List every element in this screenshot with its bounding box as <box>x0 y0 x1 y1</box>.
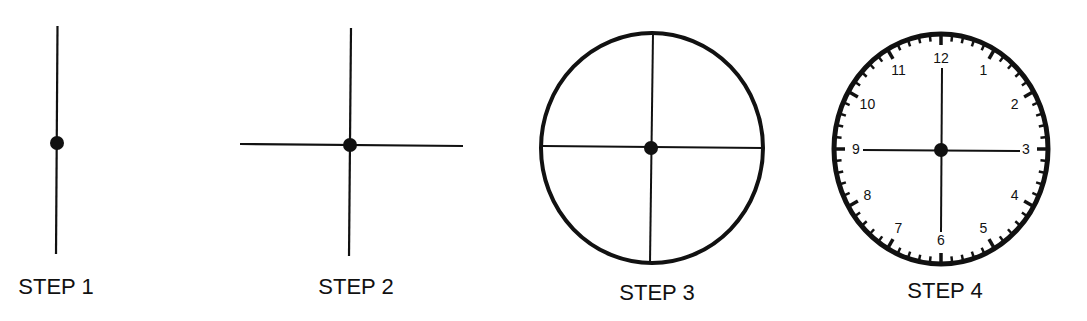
hour-number-11: 11 <box>891 62 906 78</box>
hour-tick <box>848 201 858 207</box>
hour-number-12: 12 <box>933 50 949 66</box>
minute-tick <box>869 229 874 234</box>
hour-tick <box>1024 92 1034 98</box>
hour-tick <box>1024 201 1034 207</box>
hour-number-5: 5 <box>980 220 988 236</box>
minute-tick <box>878 56 882 62</box>
minute-tick <box>1015 72 1020 77</box>
center-dot <box>644 141 658 155</box>
minute-tick <box>951 256 952 263</box>
hour-number-3: 3 <box>1022 141 1030 157</box>
hour-number-7: 7 <box>895 220 903 236</box>
minute-tick <box>1022 81 1028 85</box>
hour-number-10: 10 <box>860 96 876 112</box>
minute-tick <box>1040 137 1047 138</box>
minute-tick <box>962 37 963 44</box>
minute-tick <box>878 236 882 242</box>
hour-number-1: 1 <box>980 62 988 78</box>
minute-tick <box>962 255 963 262</box>
minute-tick <box>1022 212 1028 216</box>
minute-tick <box>835 137 842 138</box>
minute-tick <box>836 171 843 172</box>
minute-tick <box>854 212 860 216</box>
step-1-label: STEP 1 <box>18 274 93 299</box>
minute-tick <box>1000 236 1004 242</box>
minute-tick <box>930 35 931 42</box>
step-2-label: STEP 2 <box>318 274 393 299</box>
hour-number-8: 8 <box>863 187 871 203</box>
step-4-figure: 121234567891011 STEP 4 <box>834 34 1048 303</box>
step-4-label: STEP 4 <box>907 278 982 303</box>
minute-tick <box>919 37 920 44</box>
minute-tick <box>1015 221 1020 226</box>
minute-tick <box>1040 160 1047 161</box>
center-dot <box>50 136 64 150</box>
minute-tick <box>1008 229 1013 234</box>
hour-tick <box>848 92 858 98</box>
clock-drawing-diagram: STEP 1 STEP 2 STEP 3 121234567891011 STE… <box>0 0 1087 321</box>
hour-number-2: 2 <box>1011 96 1019 112</box>
hour-number-6: 6 <box>937 232 945 248</box>
minute-tick <box>1039 171 1046 172</box>
minute-tick <box>930 256 931 263</box>
step-3-label: STEP 3 <box>619 280 694 305</box>
minute-tick <box>1000 56 1004 62</box>
minute-tick <box>835 160 842 161</box>
minute-tick <box>861 221 866 226</box>
hour-number-4: 4 <box>1011 187 1019 203</box>
step-2-figure: STEP 2 <box>240 28 463 299</box>
center-dot <box>934 143 948 157</box>
minute-tick <box>919 255 920 262</box>
minute-tick <box>836 125 843 126</box>
minute-tick <box>854 81 860 85</box>
minute-tick <box>1039 125 1046 126</box>
hour-tick <box>989 49 995 59</box>
minute-tick <box>951 35 952 42</box>
minute-tick <box>869 64 874 69</box>
step-3-figure: STEP 3 <box>541 33 763 305</box>
hour-tick <box>888 239 894 249</box>
center-dot <box>343 138 357 152</box>
hour-tick <box>888 49 894 59</box>
step-1-figure: STEP 1 <box>18 26 93 299</box>
hour-number-9: 9 <box>852 141 860 157</box>
minute-tick <box>861 72 866 77</box>
minute-tick <box>1008 64 1013 69</box>
hour-tick <box>989 239 995 249</box>
